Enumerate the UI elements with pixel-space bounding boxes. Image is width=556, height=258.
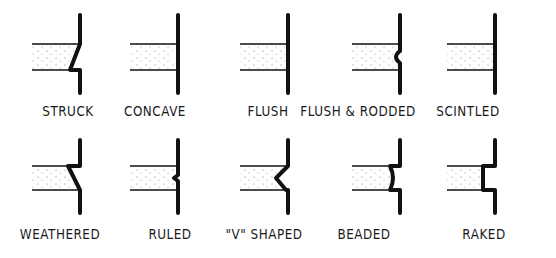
mortar-fill [352, 166, 393, 190]
wall-face-profile [396, 15, 400, 93]
mortar-fill [447, 166, 483, 190]
mortar-fill [352, 44, 400, 70]
joint-beaded [352, 140, 400, 213]
joint-label-beaded: BEADED [337, 226, 390, 242]
joint-struck [32, 15, 80, 93]
joint-flush-rodded [352, 15, 400, 93]
joint-raked [447, 140, 495, 213]
mortar-fill [447, 44, 497, 70]
mortar-fill [130, 166, 178, 190]
joint-v-shaped [240, 140, 288, 213]
mortar-fill [130, 44, 176, 70]
joint-weathered [32, 140, 80, 213]
mortar-fill [240, 44, 288, 70]
mortar-fill [240, 166, 286, 190]
joint-ruled [130, 140, 178, 213]
joint-label-v-shaped: "V" SHAPED [226, 226, 303, 242]
joint-label-flush: FLUSH [248, 103, 289, 119]
joint-flush [240, 15, 288, 93]
mortar-joint-diagram [0, 0, 556, 258]
wall-face-profile [174, 140, 178, 213]
joint-scintled [447, 15, 497, 93]
wall-face-profile [390, 140, 400, 213]
wall-face-profile [483, 140, 495, 213]
joint-concave [130, 15, 178, 93]
joint-label-weathered: WEATHERED [20, 226, 100, 242]
joint-label-raked: RAKED [462, 226, 505, 242]
joint-label-flush-rodded: FLUSH & RODDED [300, 103, 416, 119]
joint-label-ruled: RULED [148, 226, 191, 242]
joint-label-scintled: SCINTLED [436, 103, 499, 119]
joint-label-concave: CONCAVE [124, 103, 186, 119]
joint-label-struck: STRUCK [42, 103, 93, 119]
wall-face-profile [276, 140, 288, 213]
